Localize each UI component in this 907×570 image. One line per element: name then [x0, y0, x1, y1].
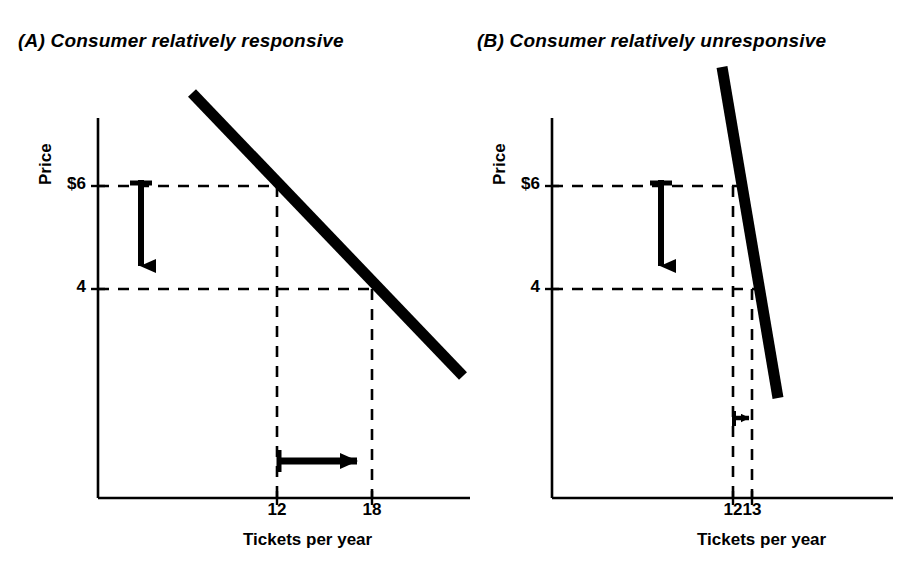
panel-b-xtick-13: 13	[732, 500, 772, 520]
panel-a-title: (A) Consumer relatively responsive	[18, 30, 344, 52]
panel-a-xtick-18: 18	[352, 500, 392, 520]
elasticity-figure: (A) Consumer relatively responsive (B) C…	[0, 0, 907, 570]
panel-a-xtick-12: 12	[257, 500, 297, 520]
panel-b-ytick-6: $6	[494, 174, 540, 194]
panel-a-x-axis-label: Tickets per year	[243, 530, 372, 550]
panel-a-demand-curve	[192, 93, 463, 376]
panel-b-x-axis-label: Tickets per year	[697, 530, 826, 550]
panel-a-quantity-increase-arrow	[277, 450, 357, 472]
panel-a-axes	[98, 118, 470, 498]
panel-a-ytick-6: $6	[40, 174, 86, 194]
panel-b-price-decrease-arrow	[650, 180, 672, 266]
panel-a-price-decrease-arrow	[130, 180, 152, 266]
panel-b-title: (B) Consumer relatively unresponsive	[477, 30, 826, 52]
panel-a-ytick-4: 4	[40, 277, 86, 297]
panel-b-demand-curve	[722, 67, 778, 398]
panel-b-ytick-4: 4	[494, 277, 540, 297]
panel-b-quantity-increase-arrow	[733, 411, 749, 426]
panel-b-axes	[552, 118, 893, 498]
